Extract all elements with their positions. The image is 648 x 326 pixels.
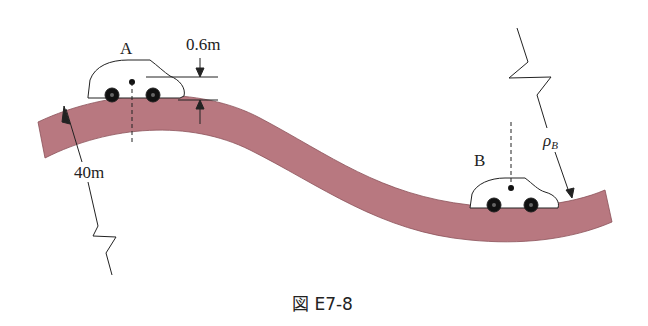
label-b: B: [474, 152, 485, 169]
car-a: [88, 60, 184, 102]
radius-b-arrow: [509, 28, 574, 198]
rho-subscript: B: [551, 139, 558, 151]
label-a: A: [120, 40, 132, 57]
road: [38, 95, 612, 242]
radius-a-label: 40m: [74, 164, 104, 181]
rho-symbol: ρ: [543, 131, 551, 150]
figure-caption: 図 E7-8: [292, 296, 353, 313]
car-b: [470, 178, 558, 212]
height-label: 0.6m: [186, 36, 220, 53]
radius-b-label: ρB: [543, 132, 558, 151]
